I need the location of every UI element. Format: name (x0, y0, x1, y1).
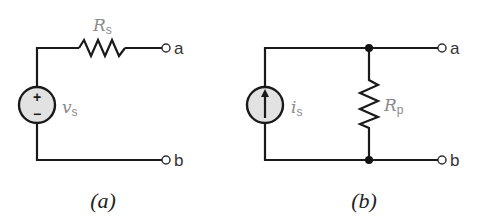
minus-sign: − (33, 106, 41, 122)
label-rp: Rp (383, 95, 404, 117)
label-vs: vs (62, 97, 78, 119)
caption-a: (a) (90, 188, 116, 213)
circuit-diagram: + − vs Rs a b (a) is Rp (0, 0, 488, 216)
terminal-label-a: a (450, 39, 460, 58)
node-top-icon (365, 44, 373, 52)
terminal-label-a: a (174, 39, 184, 58)
caption-b: (b) (351, 188, 377, 213)
plus-sign: + (33, 89, 41, 105)
terminal-a-icon (162, 44, 170, 52)
terminal-b-icon (438, 156, 446, 164)
label-is: is (291, 97, 302, 119)
circuit-b: is Rp a b (b) (247, 39, 460, 213)
node-bottom-icon (365, 156, 373, 164)
wire-b-top (265, 48, 438, 87)
label-rs: Rs (92, 15, 112, 37)
wire-a-bottom (37, 123, 162, 160)
terminal-b-icon (162, 156, 170, 164)
terminal-a-icon (438, 44, 446, 52)
wire-a-top-left (37, 48, 79, 87)
wire-b-bottom (265, 123, 438, 160)
circuit-a: + − vs Rs a b (a) (19, 15, 184, 213)
terminal-label-b: b (174, 151, 183, 170)
resistor-rp (360, 48, 378, 160)
resistor-rs (79, 40, 125, 56)
terminal-label-b: b (450, 151, 459, 170)
